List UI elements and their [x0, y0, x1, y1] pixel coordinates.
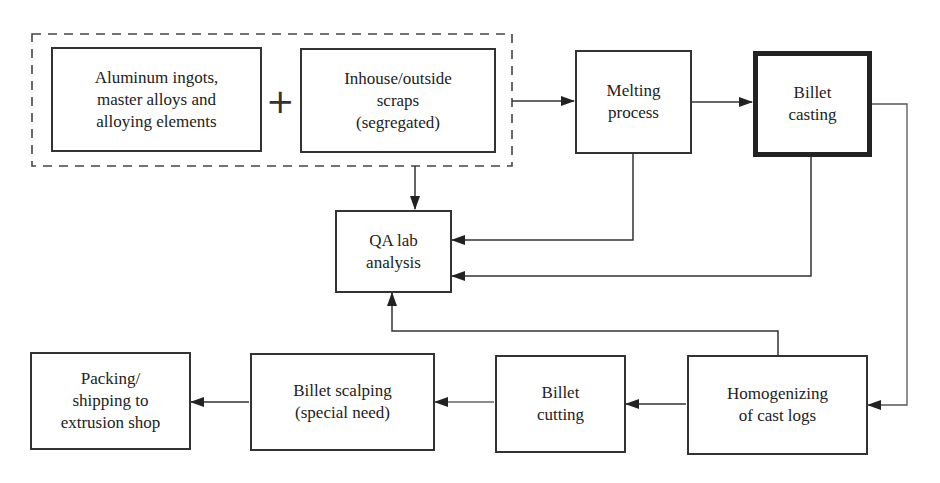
node-qa-lab-label: QA lab analysis	[366, 230, 421, 274]
node-qa-lab: QA lab analysis	[335, 210, 452, 293]
node-packing-shipping-label: Packing/ shipping to extrusion shop	[61, 368, 161, 434]
node-packing-shipping: Packing/ shipping to extrusion shop	[30, 352, 191, 450]
node-billet-cutting: Billet cutting	[495, 355, 626, 453]
node-billet-scalping: Billet scalping (special need)	[250, 353, 435, 451]
edge-casting-to-qa	[452, 156, 811, 276]
node-billet-casting: Billet casting	[753, 51, 872, 157]
plus-operator: +	[266, 84, 295, 118]
node-raw-materials: Aluminum ingots, master alloys and alloy…	[51, 47, 262, 152]
edge-casting-to-homogenizing	[868, 104, 907, 405]
node-billet-casting-label: Billet casting	[788, 82, 836, 126]
node-billet-cutting-label: Billet cutting	[537, 382, 584, 426]
node-raw-materials-label: Aluminum ingots, master alloys and alloy…	[95, 67, 219, 133]
node-homogenizing: Homogenizing of cast logs	[687, 355, 868, 455]
edge-homogenizing-to-qa	[392, 293, 778, 355]
node-scraps-label: Inhouse/outside scraps (segregated)	[344, 68, 452, 134]
node-melting-label: Melting process	[607, 80, 661, 124]
node-billet-scalping-label: Billet scalping (special need)	[293, 380, 392, 424]
node-homogenizing-label: Homogenizing of cast logs	[727, 383, 828, 427]
node-scraps: Inhouse/outside scraps (segregated)	[300, 48, 496, 153]
node-melting: Melting process	[575, 50, 692, 154]
